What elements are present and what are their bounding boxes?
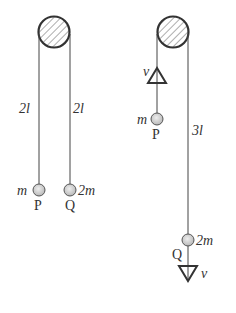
right-ball-q-icon (182, 234, 194, 246)
right-pulley-icon (158, 17, 189, 48)
left-pulley-icon (39, 17, 70, 48)
left-length-label-q: 2l (73, 101, 84, 116)
right-ball-q-mass-label: 2m (196, 233, 213, 248)
right-ball-p-icon (151, 113, 163, 125)
ball-q-mass-label: 2m (78, 183, 95, 198)
ball-p-icon (33, 184, 45, 196)
right-system: v m P 3l 2m Q v (137, 17, 213, 282)
ball-q-name-label: Q (65, 198, 75, 213)
right-length-label: 3l (191, 123, 203, 138)
right-ball-p-name-label: P (152, 127, 160, 142)
ball-q-icon (64, 184, 76, 196)
ball-p-name-label: P (34, 198, 42, 213)
left-length-label-p: 2l (19, 101, 30, 116)
right-ball-q-name-label: Q (172, 247, 182, 262)
pulley-diagram: 2l 2l m 2m P Q v m P 3l 2m Q v (0, 0, 236, 313)
right-ball-p-mass-label: m (137, 112, 147, 127)
velocity-up-label: v (143, 64, 150, 79)
velocity-down-label: v (201, 266, 208, 281)
left-system: 2l 2l m 2m P Q (17, 17, 95, 214)
ball-p-mass-label: m (17, 183, 27, 198)
